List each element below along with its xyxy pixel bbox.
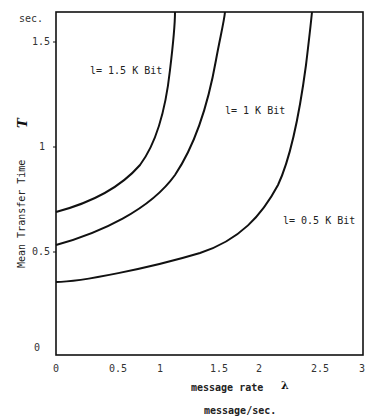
label-0-5k-bit: l= 0.5 K Bit xyxy=(283,215,355,226)
curve-1-5k-bit xyxy=(56,12,175,212)
curve-1k-bit xyxy=(56,12,225,245)
x-tick-2: 2 xyxy=(256,363,262,374)
chart: 0 0.5 1 1.5 sec. Mean Transfer Time T 0 … xyxy=(0,0,377,418)
x-axis-symbol: λ xyxy=(281,379,289,392)
y-tick-1-5: 1.5 xyxy=(32,36,50,47)
label-1-5k-bit: l= 1.5 K Bit xyxy=(90,65,162,76)
y-axis-title: Mean Transfer Time xyxy=(16,160,27,268)
y-unit-label: sec. xyxy=(19,13,43,24)
x-tick-3: 3 xyxy=(359,363,365,374)
y-axis-symbol: T xyxy=(15,117,30,128)
x-tick-2-5: 2.5 xyxy=(311,363,329,374)
y-tick-0-5: 0.5 xyxy=(32,246,50,257)
plot-frame xyxy=(56,12,363,355)
x-tick-1: 1 xyxy=(157,363,163,374)
x-axis-title: message rate xyxy=(191,382,263,393)
curve-0-5k-bit xyxy=(56,12,312,282)
x-tick-0-5: 0.5 xyxy=(109,363,127,374)
x-tick-0: 0 xyxy=(53,363,59,374)
y-tick-0: 0 xyxy=(34,342,40,353)
y-tick-1: 1 xyxy=(39,141,45,152)
label-1k-bit: l= 1 K Bit xyxy=(225,105,285,116)
x-axis-unit: message/sec. xyxy=(204,405,276,416)
x-tick-1-5: 1.5 xyxy=(210,363,228,374)
